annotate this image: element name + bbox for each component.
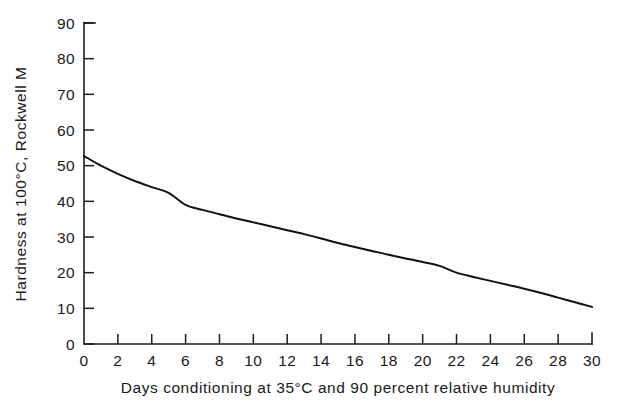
x-axis-ticks xyxy=(118,334,558,344)
axis-frame xyxy=(84,23,592,344)
x-tick-label-16: 16 xyxy=(346,352,364,369)
chart-figure: 0102030405060708090 02468101214161820222… xyxy=(0,0,627,412)
y-tick-label-40: 40 xyxy=(57,193,75,210)
x-tick-label-4: 4 xyxy=(147,352,156,369)
chart-axes: 0102030405060708090 02468101214161820222… xyxy=(57,15,601,370)
y-axis-tick-labels: 0102030405060708090 xyxy=(57,15,75,353)
y-tick-label-60: 60 xyxy=(57,122,75,139)
x-tick-label-10: 10 xyxy=(244,352,262,369)
y-tick-label-20: 20 xyxy=(57,264,75,281)
x-tick-label-12: 12 xyxy=(278,352,296,369)
x-tick-label-30: 30 xyxy=(583,352,601,369)
y-axis-title: Hardness at 100°C, Rockwell M xyxy=(12,67,29,302)
x-tick-label-24: 24 xyxy=(481,352,499,369)
x-tick-label-20: 20 xyxy=(414,352,432,369)
x-tick-label-2: 2 xyxy=(113,352,122,369)
x-tick-label-28: 28 xyxy=(549,352,567,369)
y-tick-label-90: 90 xyxy=(57,15,75,32)
line-chart: 0102030405060708090 02468101214161820222… xyxy=(0,0,627,412)
x-tick-label-6: 6 xyxy=(181,352,190,369)
y-tick-label-50: 50 xyxy=(57,157,75,174)
y-axis-ticks xyxy=(84,23,94,344)
x-tick-label-0: 0 xyxy=(79,352,88,369)
y-tick-label-30: 30 xyxy=(57,229,75,246)
data-curve-hardness xyxy=(84,156,592,307)
x-tick-label-8: 8 xyxy=(215,352,224,369)
x-tick-label-14: 14 xyxy=(312,352,330,369)
x-tick-label-26: 26 xyxy=(515,352,533,369)
x-tick-label-22: 22 xyxy=(448,352,466,369)
y-tick-label-80: 80 xyxy=(57,50,75,67)
y-tick-label-10: 10 xyxy=(57,300,75,317)
y-tick-label-70: 70 xyxy=(57,86,75,103)
y-tick-label-0: 0 xyxy=(66,336,75,353)
x-axis-tick-labels: 024681012141618202224262830 xyxy=(79,352,601,369)
x-tick-label-18: 18 xyxy=(380,352,398,369)
x-axis-title: Days conditioning at 35°C and 90 percent… xyxy=(121,379,555,396)
chart-series xyxy=(84,156,592,307)
